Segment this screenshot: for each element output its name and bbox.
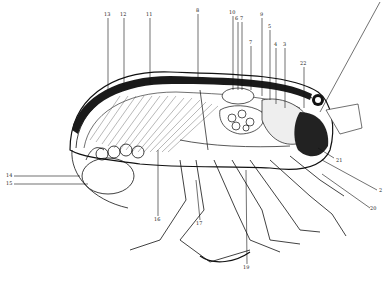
label-9: 9 bbox=[260, 12, 263, 17]
label-3: 3 bbox=[283, 42, 286, 47]
label-14: 14 bbox=[6, 173, 12, 178]
label-22: 22 bbox=[300, 61, 306, 66]
tail-fan bbox=[72, 144, 144, 208]
label-13: 13 bbox=[104, 12, 110, 17]
label-20: 20 bbox=[370, 206, 376, 211]
label-5: 5 bbox=[268, 24, 271, 29]
antennal-scale bbox=[326, 104, 362, 134]
shrimp-anatomy-figure bbox=[0, 0, 391, 283]
label-8: 8 bbox=[196, 8, 199, 13]
label-17: 17 bbox=[196, 221, 202, 226]
label-19: 19 bbox=[243, 265, 249, 270]
label-7b: 7 bbox=[249, 40, 252, 45]
head-mouthparts bbox=[294, 112, 328, 156]
label-2: 2 bbox=[379, 188, 382, 193]
label-4: 4 bbox=[274, 42, 277, 47]
label-11: 11 bbox=[146, 12, 152, 17]
label-15: 15 bbox=[6, 181, 12, 186]
internal-organs bbox=[180, 88, 311, 150]
label-6: 6 bbox=[235, 16, 238, 21]
label-21: 21 bbox=[336, 158, 342, 163]
label-7: 7 bbox=[240, 16, 243, 21]
label-12: 12 bbox=[120, 12, 126, 17]
muscle-hatching bbox=[90, 96, 218, 152]
walking-legs bbox=[130, 156, 346, 262]
label-16: 16 bbox=[154, 217, 160, 222]
